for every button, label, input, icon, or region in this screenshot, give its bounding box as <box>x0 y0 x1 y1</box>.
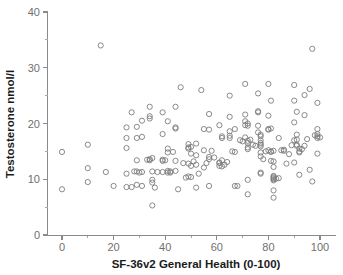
data-point <box>85 179 90 184</box>
data-point <box>286 152 291 157</box>
data-point <box>129 110 134 115</box>
data-point <box>85 142 90 147</box>
data-point <box>139 183 144 188</box>
data-point <box>206 127 211 132</box>
data-point <box>170 149 175 154</box>
data-point <box>134 158 139 163</box>
x-tick-label: 40 <box>159 241 171 253</box>
data-point <box>271 164 276 169</box>
data-point <box>268 98 273 103</box>
data-point <box>212 155 217 160</box>
y-tick-label: 20 <box>28 118 40 130</box>
data-point <box>276 135 281 140</box>
data-point <box>292 120 297 125</box>
data-point <box>160 110 165 115</box>
data-point <box>243 81 248 86</box>
data-point <box>124 171 129 176</box>
data-point <box>196 171 201 176</box>
data-point <box>124 125 129 130</box>
data-point <box>103 169 108 174</box>
data-point <box>271 195 276 200</box>
y-tick-label: 40 <box>28 6 40 18</box>
data-point <box>243 112 248 117</box>
data-point <box>147 104 152 109</box>
y-axis: 010203040 <box>28 6 48 241</box>
data-point <box>209 148 214 153</box>
chart-canvas: 010203040 020406080100 SF-36v2 General H… <box>0 0 343 275</box>
data-point <box>245 177 250 182</box>
data-point <box>59 187 64 192</box>
data-point <box>124 135 129 140</box>
x-axis-title: SF-36v2 General Health (0-100) <box>112 258 281 270</box>
data-point <box>134 182 139 187</box>
data-point <box>194 185 199 190</box>
data-point <box>134 124 139 129</box>
data-point <box>173 168 178 173</box>
data-point <box>124 184 129 189</box>
data-point <box>289 143 294 148</box>
data-point <box>181 160 186 165</box>
data-points <box>59 43 322 208</box>
data-point <box>173 104 178 109</box>
data-point <box>266 113 271 118</box>
data-point <box>160 169 165 174</box>
data-point <box>188 151 193 156</box>
data-point <box>315 100 320 105</box>
data-point <box>292 160 297 165</box>
data-point <box>160 131 165 136</box>
data-point <box>139 118 144 123</box>
data-point <box>292 98 297 103</box>
data-point <box>232 126 237 131</box>
y-tick-label: 30 <box>28 62 40 74</box>
data-point <box>85 166 90 171</box>
y-axis-title: Testosterone nmol/l <box>4 70 16 178</box>
data-point <box>165 150 170 155</box>
data-point <box>302 113 307 118</box>
data-point <box>204 160 209 165</box>
data-point <box>255 91 260 96</box>
x-tick-label: 20 <box>107 241 119 253</box>
x-tick-label: 100 <box>311 241 329 253</box>
data-point <box>201 148 206 153</box>
data-point <box>294 132 299 137</box>
x-tick-label: 80 <box>262 241 274 253</box>
data-point <box>194 141 199 146</box>
data-point <box>152 185 157 190</box>
data-point <box>139 134 144 139</box>
data-point <box>150 203 155 208</box>
data-point <box>255 123 260 128</box>
data-point <box>266 81 271 86</box>
data-point <box>199 87 204 92</box>
data-point <box>173 158 178 163</box>
data-point <box>307 86 312 91</box>
data-point <box>271 188 276 193</box>
data-point <box>155 169 160 174</box>
data-point <box>217 123 222 128</box>
data-point <box>206 111 211 116</box>
data-point <box>111 183 116 188</box>
x-axis: 020406080100 <box>48 236 337 254</box>
data-point <box>302 92 307 97</box>
data-point <box>294 109 299 114</box>
data-point <box>194 153 199 158</box>
x-tick-label: 60 <box>211 241 223 253</box>
y-tick-label: 10 <box>28 173 40 185</box>
data-point <box>292 82 297 87</box>
data-point <box>227 114 232 119</box>
data-point <box>310 46 315 51</box>
data-point <box>206 183 211 188</box>
data-point <box>227 93 232 98</box>
data-point <box>307 167 312 172</box>
y-tick-label: 0 <box>34 229 40 241</box>
data-point <box>150 169 155 174</box>
data-point <box>178 85 183 90</box>
data-point <box>305 137 310 142</box>
scatter-plot-figure: 010203040 020406080100 SF-36v2 General H… <box>0 0 343 275</box>
data-point <box>59 149 64 154</box>
data-point <box>201 126 206 131</box>
data-point <box>124 145 129 150</box>
data-point <box>134 135 139 140</box>
data-point <box>245 192 250 197</box>
data-point <box>315 126 320 131</box>
data-point <box>315 151 320 156</box>
